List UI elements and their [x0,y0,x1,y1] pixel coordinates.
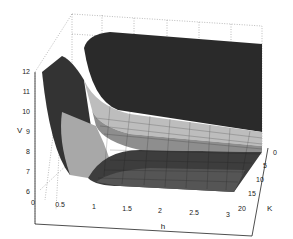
svg-text:7: 7 [26,168,30,175]
svg-text:2.5: 2.5 [189,209,199,216]
svg-text:15: 15 [248,190,256,197]
svg-text:3: 3 [226,211,230,218]
svg-text:20: 20 [238,205,246,212]
z-axis-label: V [17,126,23,135]
surface [42,32,262,192]
surface-plot: 12 11 10 9 8 7 6 V 0 0.5 1 1.5 2 2.5 3 h… [0,0,293,239]
svg-text:10: 10 [256,176,264,183]
svg-text:6: 6 [26,188,30,195]
svg-text:8: 8 [26,148,30,155]
svg-text:5: 5 [263,162,267,169]
z-axis-ticks: 12 11 10 9 8 7 6 [22,68,30,195]
svg-text:12: 12 [22,68,30,75]
svg-text:1.5: 1.5 [122,205,132,212]
svg-text:0.5: 0.5 [55,201,65,208]
x-axis-ticks: 0 0.5 1 1.5 2 2.5 3 [31,199,230,218]
svg-text:0: 0 [273,149,277,156]
svg-text:2: 2 [158,207,162,214]
svg-text:10: 10 [22,108,30,115]
svg-text:0: 0 [31,199,35,206]
svg-text:11: 11 [23,88,30,95]
svg-text:1: 1 [92,203,96,210]
svg-text:9: 9 [26,128,30,135]
y-axis-label: K [267,204,273,213]
x-axis-label: h [161,222,165,231]
